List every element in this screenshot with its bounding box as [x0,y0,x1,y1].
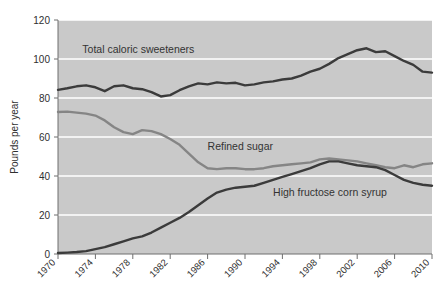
chart-container: 020406080100120 197019741978198219861990… [0,0,448,304]
sweetener-consumption-line-chart: 020406080100120 197019741978198219861990… [0,0,448,304]
y-tick-label: 120 [33,15,50,26]
y-tick-label: 60 [39,132,51,143]
y-tick-label: 20 [39,210,51,221]
x-tick-label: 1994 [259,257,282,280]
series-label: High fructose corn syrup [273,186,387,198]
x-tick-label: 1982 [147,257,170,280]
y-axis-ticks: 020406080100120 [33,15,58,260]
x-tick-label: 1978 [109,257,132,280]
y-tick-label: 40 [39,171,51,182]
y-tick-label: 100 [33,54,50,65]
series-label: Refined sugar [208,140,274,152]
x-tick-label: 1974 [72,257,95,280]
x-tick-label: 2010 [409,257,432,280]
x-tick-label: 1998 [296,257,319,280]
x-tick-label: 1970 [35,257,58,280]
x-axis-ticks: 1970197419781982198619901994199820022006… [35,254,432,279]
x-tick-label: 1990 [222,257,245,280]
y-tick-label: 80 [39,93,51,104]
x-tick-label: 2002 [334,257,357,280]
series-label: Total caloric sweeteners [82,43,194,55]
x-tick-label: 1986 [184,257,207,280]
y-axis-title: Pounds per year [9,100,20,174]
x-tick-label: 2006 [371,257,394,280]
